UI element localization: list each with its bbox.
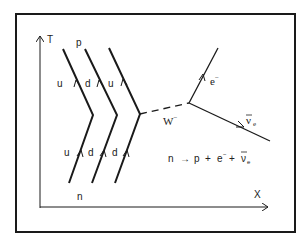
quark-lines — [63, 48, 140, 183]
feynman-diagram: T X u d d u d u n p W− e− ν e — [0, 0, 303, 238]
svg-text:−: − — [223, 151, 227, 157]
initial-quark-3: d — [112, 147, 118, 158]
svg-text:ν: ν — [241, 153, 246, 164]
w-boson-line — [140, 103, 189, 114]
svg-text:p: p — [194, 153, 200, 164]
final-quark-1: u — [57, 78, 63, 89]
antineutrino-label: ν e — [246, 114, 256, 128]
initial-quark-2: d — [88, 147, 94, 158]
final-quark-2: d — [85, 78, 91, 89]
w-boson-label: W− — [163, 114, 177, 127]
initial-quark-1: u — [64, 147, 70, 158]
proton-label: p — [76, 37, 82, 48]
electron-label: e− — [210, 74, 219, 87]
svg-text:+: + — [205, 153, 211, 164]
time-axis-label: T — [47, 34, 53, 45]
svg-text:ν: ν — [246, 114, 251, 126]
quark-line-1 — [63, 49, 93, 183]
decay-equation: n → p + e − + ν e — [168, 151, 251, 165]
svg-text:n: n — [168, 153, 174, 164]
quark-line-2 — [85, 49, 117, 183]
antineutrino-line — [189, 103, 270, 141]
svg-text:+: + — [229, 153, 235, 164]
svg-text:e: e — [253, 120, 256, 128]
svg-text:e: e — [247, 159, 251, 165]
space-axis-label: X — [254, 189, 261, 200]
final-quark-3: u — [108, 78, 114, 89]
quark-labels: u d d u d u n p — [57, 37, 118, 202]
svg-text:→: → — [180, 153, 190, 164]
quark-line-3 — [109, 48, 140, 183]
axes: T X — [40, 34, 268, 208]
neutron-label: n — [77, 191, 83, 202]
